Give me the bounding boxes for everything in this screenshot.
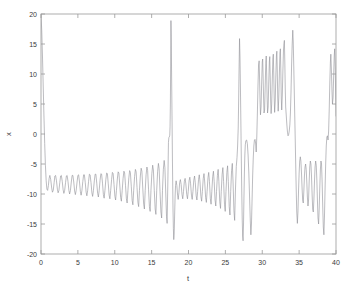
- y-tick-label: -5: [31, 161, 37, 168]
- x-tick-label: 35: [295, 259, 303, 266]
- x-tick-label: 25: [221, 259, 229, 266]
- x-tick-label: 15: [148, 259, 156, 266]
- x-tick-label: 0: [39, 259, 43, 266]
- x-tick-label: 5: [76, 259, 80, 266]
- x-tick-label: 40: [332, 259, 340, 266]
- y-tick-label: 15: [29, 41, 37, 48]
- plot-background: [0, 0, 349, 289]
- y-tick-label: -20: [27, 251, 37, 258]
- y-tick-label: 10: [29, 71, 37, 78]
- x-tick-label: 30: [258, 259, 266, 266]
- y-axis-label: x: [4, 132, 13, 136]
- y-tick-label: 5: [33, 101, 37, 108]
- plot-canvas: 0510152025303540 -20-15-10-505101520 t x: [0, 0, 349, 289]
- y-tick-label: -10: [27, 191, 37, 198]
- y-tick-label: -15: [27, 221, 37, 228]
- y-tick-label: 0: [33, 131, 37, 138]
- y-tick-label: 20: [29, 11, 37, 18]
- x-tick-label: 20: [185, 259, 193, 266]
- x-tick-label: 10: [111, 259, 119, 266]
- chart-figure: 0510152025303540 -20-15-10-505101520 t x: [0, 0, 349, 289]
